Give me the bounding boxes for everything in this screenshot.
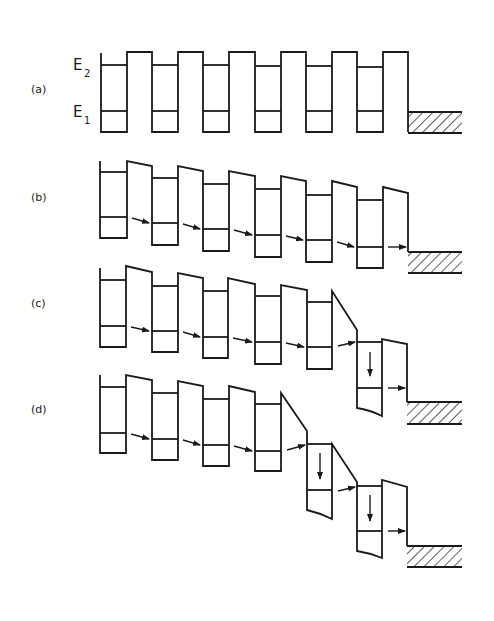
svg-text:E: E [73,56,82,74]
panel-label-d: (d) [31,403,47,416]
svg-text:E: E [73,103,82,121]
tunneling-arrows-d [131,434,405,531]
panel-label-c: (c) [31,297,46,310]
collector-contact-b [408,252,462,273]
band-edge-b [100,161,408,268]
band-edge-c [100,266,407,416]
collector-contact-a [408,112,462,133]
collector-contact-c [407,402,462,424]
energy-label-e1: E 1 [73,103,90,126]
panel-c: (c) [31,266,462,424]
panel-b: (b) [31,161,462,273]
superlattice-band-diagram: (a) E 2 E 1 [0,0,494,621]
panel-d: (d) [31,375,462,567]
tunneling-arrows-c [131,327,405,388]
subband-levels-d [100,387,382,531]
band-edge-a [101,52,408,132]
svg-text:1: 1 [84,115,90,126]
panel-label-b: (b) [31,191,47,204]
energy-label-e2: E 2 [73,56,90,79]
collector-contact-d [407,546,462,567]
subband-levels-c [100,280,382,388]
svg-text:2: 2 [84,68,90,79]
panel-label-a: (a) [31,83,46,96]
subband-levels-a [101,65,383,111]
panel-a: (a) E 2 E 1 [31,52,462,133]
